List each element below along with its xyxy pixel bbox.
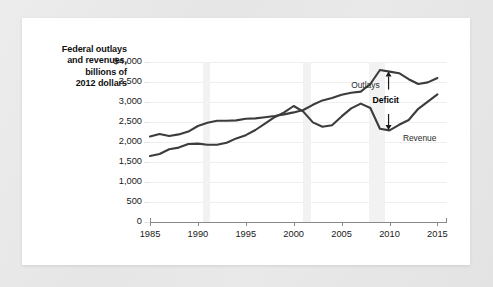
x-tick-mark [342, 222, 343, 226]
chart-figure: Federal outlays and revenues, billions o… [22, 18, 470, 265]
x-tick-mark [294, 222, 295, 226]
annotation-deficit: Deficit [372, 95, 399, 105]
x-tick-mark [246, 222, 247, 226]
y-tick-label: 2,000 [94, 137, 142, 146]
x-tick-label: 2015 [417, 229, 457, 239]
x-tick-mark [390, 222, 391, 226]
x-tick-label: 1990 [178, 229, 218, 239]
y-tick-label: 0 [94, 217, 142, 226]
plot-area: OutlaysRevenueDeficit [150, 62, 447, 222]
y-tick-label: 1,000 [94, 177, 142, 186]
figure-card: Federal outlays and revenues, billions o… [22, 18, 470, 265]
y-tick-label: $4,000 [94, 57, 142, 66]
y-tick-label: 2,500 [94, 117, 142, 126]
axis-title-line-1: Federal outlays [30, 44, 127, 55]
x-tick-label: 2000 [274, 229, 314, 239]
y-tick-label: 500 [94, 197, 142, 206]
x-tick-mark [437, 222, 438, 226]
annotation-outlays: Outlays [351, 80, 379, 90]
x-tick-label: 2005 [322, 229, 362, 239]
x-tick-label: 1995 [226, 229, 266, 239]
annotation-revenue: Revenue [403, 133, 437, 143]
x-axis-cap-right [446, 218, 447, 223]
y-tick-label: 3,000 [94, 97, 142, 106]
x-axis-line [150, 222, 447, 223]
x-tick-mark [150, 222, 151, 226]
x-tick-label: 2010 [370, 229, 410, 239]
x-tick-label: 1985 [130, 229, 170, 239]
y-tick-label: 1,500 [94, 157, 142, 166]
y-tick-label: 3,500 [94, 77, 142, 86]
x-tick-mark [198, 222, 199, 226]
